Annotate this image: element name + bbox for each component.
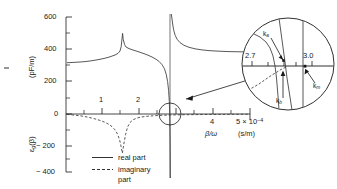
curve-real-right: [171, 14, 250, 52]
legend-label-real: real part: [118, 154, 146, 162]
plot-canvas: [0, 0, 337, 189]
y-tick-0: 0: [54, 110, 58, 118]
x-tick-5e-4: 5 × 10−4: [236, 118, 263, 126]
y-major-ticks: [66, 17, 72, 172]
x-tick-4: 4: [210, 118, 214, 126]
y-axis-label-upper: (pF/m): [28, 56, 36, 78]
inset-tick-right: 3.0: [303, 52, 313, 60]
inset-tick-left: 2.7: [245, 52, 255, 60]
y-tick-600: 600: [44, 13, 57, 21]
inset-label-kb: kb: [276, 98, 282, 106]
y-tick-200: 200: [44, 77, 57, 85]
y-tick-neg200: − 200: [36, 142, 55, 150]
curve-imaginary: [67, 114, 250, 153]
x-axis-label: β/ω: [205, 130, 217, 138]
y-tick-neg400: − 400: [36, 168, 55, 176]
x-tick-1: 1: [99, 96, 103, 104]
legend-label-imaginary-cont: part: [118, 176, 131, 184]
x-minor-ticks: [84, 110, 231, 114]
axes-group: [66, 17, 250, 172]
x-major-ticks: [102, 108, 250, 114]
inset-label-ka: ka: [263, 31, 269, 39]
legend-lines: [92, 158, 113, 170]
figure-container: 600 400 200 0 − 200 − 400 1 2 4 5 × 10−4…: [0, 0, 337, 189]
y-minor-ticks: [66, 33, 70, 159]
inset-leader: [186, 80, 248, 101]
legend-label-imaginary: imaginary: [118, 166, 151, 174]
x-tick-2: 2: [136, 96, 140, 104]
inset-group: [242, 18, 334, 110]
y-axis-label-lower: εg(β): [28, 136, 37, 152]
y-tick-400: 400: [44, 45, 57, 53]
inset-label-km: km: [313, 83, 320, 91]
inset-boundary: [242, 18, 334, 110]
x-axis-units: (s/m): [238, 130, 255, 138]
